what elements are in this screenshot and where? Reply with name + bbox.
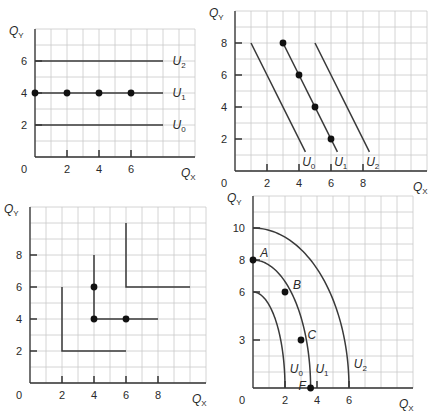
data-point <box>280 40 287 47</box>
data-point <box>282 289 289 296</box>
y-tick-label: 3 <box>239 334 245 346</box>
origin-label: 0 <box>21 163 27 175</box>
x-axis-title: QX <box>192 392 207 408</box>
data-point <box>91 284 98 291</box>
x-tick-label: 6 <box>346 394 352 406</box>
x-tick-label: 6 <box>123 389 129 401</box>
curve-label-u2: U2 <box>366 155 380 171</box>
curve-label-u0: U0 <box>302 155 316 171</box>
x-tick-label: 4 <box>91 389 97 401</box>
panel-a: 2462460QXQYU2U1U0 <box>9 24 196 182</box>
data-point <box>312 104 319 111</box>
panel-b: 246824680QXQYU0U1U2 <box>209 6 428 196</box>
point-label-c: C <box>307 328 316 342</box>
point-label-f: F <box>299 379 307 393</box>
x-tick-label: 4 <box>314 394 320 406</box>
curve-label-u1: U1 <box>334 155 348 171</box>
data-point <box>91 316 98 323</box>
y-axis-title: QY <box>4 202 19 218</box>
y-tick-label: 8 <box>221 37 227 49</box>
data-point <box>96 90 103 97</box>
grid <box>253 196 413 388</box>
curve-label-u1: U1 <box>173 86 187 102</box>
x-tick-label: 6 <box>128 163 134 175</box>
data-point <box>64 90 71 97</box>
y-tick-label: 4 <box>221 101 227 113</box>
y-tick-label: 10 <box>233 222 245 234</box>
y-tick-label: 6 <box>239 286 245 298</box>
x-tick-label: 8 <box>155 389 161 401</box>
data-point <box>123 316 130 323</box>
y-tick-label: 8 <box>239 254 245 266</box>
curve-label-u2: U2 <box>354 357 368 373</box>
y-axis-title: QY <box>209 6 224 22</box>
origin-label: 0 <box>239 394 245 406</box>
x-axis-title: QX <box>399 397 414 413</box>
y-tick-label: 2 <box>21 119 27 131</box>
data-point <box>298 337 305 344</box>
curve-label-u1: U1 <box>315 362 329 378</box>
curve-label-u0: U0 <box>173 118 187 134</box>
x-tick-label: 2 <box>282 394 288 406</box>
origin-label: 0 <box>221 177 227 189</box>
data-point <box>307 385 314 392</box>
y-tick-label: 6 <box>21 55 27 67</box>
data-point <box>328 136 335 143</box>
data-point <box>296 72 303 79</box>
grid <box>235 11 427 171</box>
data-point <box>128 90 135 97</box>
y-tick-label: 6 <box>16 281 22 293</box>
indifference-curve-figure: 2462460QXQYU2U1U0 246824680QXQYU0U1U2 24… <box>0 0 443 419</box>
x-tick-label: 4 <box>96 163 102 175</box>
x-tick-label: 6 <box>328 177 334 189</box>
point-label-a: A <box>259 246 268 260</box>
panel-d: 246368100QXQYU0U1U2ABCF <box>227 191 414 413</box>
y-tick-label: 8 <box>16 249 22 261</box>
x-axis-title: QX <box>181 166 196 182</box>
y-axis-title: QY <box>227 191 242 207</box>
y-tick-label: 2 <box>221 133 227 145</box>
x-tick-label: 2 <box>64 163 70 175</box>
x-tick-label: 2 <box>59 389 65 401</box>
y-tick-label: 2 <box>16 345 22 357</box>
curve-label-u2: U2 <box>173 54 187 70</box>
y-axis-title: QY <box>9 24 24 40</box>
panel-c: 246824680QXQY <box>4 202 207 408</box>
x-tick-label: 4 <box>296 177 302 189</box>
data-point <box>250 257 257 264</box>
y-tick-label: 4 <box>21 87 27 99</box>
y-tick-label: 4 <box>16 313 22 325</box>
curve-label-u0: U0 <box>290 362 304 378</box>
origin-label: 0 <box>16 389 22 401</box>
x-axis-title: QX <box>413 180 428 196</box>
point-label-b: B <box>293 278 301 292</box>
data-point <box>32 90 39 97</box>
grid <box>30 207 206 383</box>
x-tick-label: 2 <box>264 177 270 189</box>
x-tick-label: 8 <box>360 177 366 189</box>
y-tick-label: 6 <box>221 69 227 81</box>
